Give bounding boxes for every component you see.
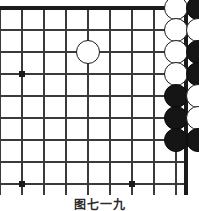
go-board-grid [0,0,199,195]
go-diagram-figure: 1 图七一九 [0,0,199,211]
grid-vertical-lines [0,8,176,195]
star-point [19,71,26,78]
star-point [129,181,136,188]
figure-caption: 图七一九 [0,198,199,211]
star-points [19,71,136,188]
star-point [19,181,26,188]
go-board[interactable]: 1 [0,0,199,195]
grid-horizontal-lines [0,30,186,184]
